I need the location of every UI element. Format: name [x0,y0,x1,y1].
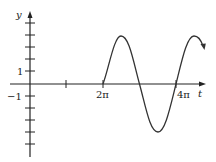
y-axis-arrow-icon [28,11,33,18]
tick-label-1: 1 [17,66,23,77]
tick-label-2pi: 2π [96,89,109,100]
t-axis-arrow-icon [199,82,206,87]
t-axis-label: t [198,88,203,99]
sine-chart: y t 1 −1 2π 4π [0,0,216,162]
curve-arrow-icon [201,44,206,51]
tick-label-4pi: 4π [177,89,190,100]
y-axis-label: y [15,9,22,20]
tick-label-neg1: −1 [7,91,22,102]
